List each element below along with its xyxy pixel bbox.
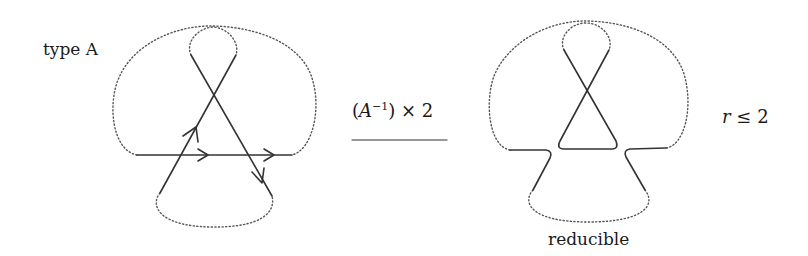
right-outer-dotted-arc	[489, 21, 688, 150]
operation-label: (A−1) × 2	[352, 100, 433, 121]
op-prefix: (	[352, 100, 359, 121]
right-right-hook	[625, 148, 666, 190]
right-diagram	[489, 21, 688, 222]
arrowhead-icon	[183, 127, 198, 142]
left-strand-descending	[191, 55, 272, 196]
right-strand-left	[559, 50, 617, 149]
condition-rest: ≤ 2	[731, 106, 769, 127]
condition-label: r ≤ 2	[722, 106, 769, 127]
reducible-caption: reducible	[548, 229, 629, 249]
left-diagram	[113, 26, 316, 227]
op-suffix: ) × 2	[388, 100, 433, 121]
left-strand-ascending	[160, 55, 236, 193]
left-top-dotted-loop	[190, 27, 237, 55]
left-outer-dotted-arc	[113, 26, 316, 155]
type-label: type A	[43, 39, 98, 59]
op-variable: A	[359, 100, 372, 121]
condition-variable: r	[722, 106, 731, 127]
right-bottom-dotted-loop	[529, 190, 649, 222]
right-left-hook	[510, 150, 551, 190]
op-exponent: −1	[372, 100, 388, 113]
operation-arrow	[352, 136, 450, 144]
diagram-canvas	[0, 0, 808, 256]
left-bottom-dotted-loop	[156, 193, 272, 227]
right-top-dotted-loop	[562, 23, 610, 50]
